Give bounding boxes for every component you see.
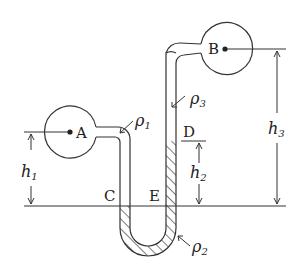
label-rho1: ρ1	[134, 111, 151, 131]
reference-lines	[24, 49, 286, 206]
point-a-dot	[67, 129, 72, 134]
rho2-pointer	[178, 236, 190, 246]
label-rho3: ρ3	[189, 89, 206, 109]
label-d: D	[183, 123, 195, 141]
label-rho2: ρ2	[191, 237, 208, 257]
manometer-diagram: A B C D E ρ1 ρ3 ρ2 h1 h2 h3	[0, 0, 304, 276]
tube	[96, 43, 201, 256]
label-c: C	[104, 187, 115, 205]
label-h3: h3	[268, 119, 285, 139]
label-a: A	[75, 124, 87, 142]
label-h1: h1	[21, 162, 38, 182]
rho3-pointer	[172, 96, 185, 107]
point-b-dot	[222, 46, 227, 51]
label-h2: h2	[190, 163, 207, 183]
label-e: E	[149, 187, 160, 205]
label-b: B	[208, 40, 219, 58]
